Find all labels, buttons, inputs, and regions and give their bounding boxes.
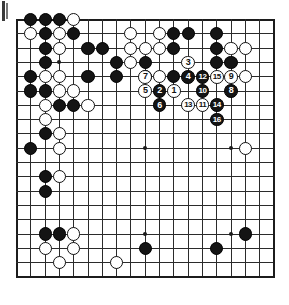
black-stone[interactable] [96,42,109,55]
black-stone[interactable] [39,185,52,198]
black-stone[interactable] [210,42,223,55]
move-number-label: 7 [143,72,148,81]
move-stone-15[interactable]: 15 [210,70,224,84]
move-number-label: 2 [157,86,162,95]
white-stone[interactable] [67,84,80,97]
black-stone[interactable] [39,13,52,26]
grid-line-horizontal [16,276,275,278]
white-stone[interactable] [39,99,52,112]
move-number-label: 10 [198,86,206,94]
black-stone[interactable] [167,70,180,83]
black-stone[interactable] [24,70,37,83]
white-stone[interactable] [53,27,66,40]
move-number-label: 1 [172,86,177,95]
move-number-label: 13 [184,101,192,109]
white-stone[interactable] [24,27,37,40]
black-stone[interactable] [67,27,80,40]
move-number-label: 16 [213,115,221,123]
white-stone[interactable] [67,242,80,255]
black-stone[interactable] [167,42,180,55]
white-stone[interactable] [124,42,137,55]
white-stone[interactable] [110,256,123,269]
star-point [143,232,147,236]
grid-line-vertical [259,19,260,278]
black-stone[interactable] [139,242,152,255]
black-stone[interactable] [110,56,123,69]
white-stone[interactable] [153,70,166,83]
move-stone-7[interactable]: 7 [138,70,152,84]
black-stone[interactable] [39,42,52,55]
white-stone[interactable] [67,13,80,26]
go-diagram-page: 12345678910111213141516 [0,0,289,305]
move-stone-13[interactable]: 13 [181,98,195,112]
black-stone[interactable] [210,242,223,255]
white-stone[interactable] [53,42,66,55]
black-stone[interactable] [139,56,152,69]
white-stone[interactable] [153,42,166,55]
move-stone-1[interactable]: 1 [167,84,181,98]
white-stone[interactable] [39,113,52,126]
black-stone[interactable] [210,27,223,40]
move-stone-12[interactable]: 12 [196,70,210,84]
black-stone[interactable] [224,56,237,69]
move-stone-2[interactable]: 2 [153,84,167,98]
move-stone-4[interactable]: 4 [181,70,195,84]
black-stone[interactable] [24,13,37,26]
grid-line-vertical [159,19,160,278]
black-stone[interactable] [210,56,223,69]
white-stone[interactable] [39,242,52,255]
white-stone[interactable] [139,42,152,55]
move-stone-14[interactable]: 14 [210,98,224,112]
move-stone-16[interactable]: 16 [210,113,224,127]
go-board[interactable]: 12345678910111213141516 [0,0,289,305]
black-stone[interactable] [182,27,195,40]
black-stone[interactable] [81,70,94,83]
move-stone-11[interactable]: 11 [196,98,210,112]
white-stone[interactable] [124,56,137,69]
black-stone[interactable] [39,170,52,183]
move-number-label: 14 [213,101,221,109]
black-stone[interactable] [167,27,180,40]
star-point [229,232,233,236]
black-stone[interactable] [39,84,52,97]
move-stone-3[interactable]: 3 [181,56,195,70]
white-stone[interactable] [239,142,252,155]
black-stone[interactable] [53,99,66,112]
white-stone[interactable] [53,127,66,140]
grid-line-horizontal [16,219,275,220]
move-stone-9[interactable]: 9 [224,70,238,84]
star-point [229,146,233,150]
move-stone-8[interactable]: 8 [224,84,238,98]
black-stone[interactable] [24,142,37,155]
black-stone[interactable] [239,227,252,240]
white-stone[interactable] [53,142,66,155]
white-stone[interactable] [53,70,66,83]
black-stone[interactable] [110,70,123,83]
white-stone[interactable] [239,42,252,55]
white-stone[interactable] [67,227,80,240]
white-stone[interactable] [224,42,237,55]
black-stone[interactable] [67,99,80,112]
white-stone[interactable] [53,84,66,97]
black-stone[interactable] [24,84,37,97]
move-stone-6[interactable]: 6 [153,98,167,112]
black-stone[interactable] [53,227,66,240]
move-number-label: 4 [186,72,191,81]
move-stone-10[interactable]: 10 [196,84,210,98]
white-stone[interactable] [153,27,166,40]
white-stone[interactable] [81,99,94,112]
black-stone[interactable] [39,227,52,240]
white-stone[interactable] [39,70,52,83]
black-stone[interactable] [39,27,52,40]
move-number-label: 5 [143,86,148,95]
black-stone[interactable] [39,127,52,140]
white-stone[interactable] [53,170,66,183]
white-stone[interactable] [53,256,66,269]
white-stone[interactable] [239,70,252,83]
black-stone[interactable] [81,42,94,55]
move-stone-5[interactable]: 5 [138,84,152,98]
move-number-label: 12 [198,72,206,80]
black-stone[interactable] [53,13,66,26]
black-stone[interactable] [39,56,52,69]
white-stone[interactable] [124,27,137,40]
